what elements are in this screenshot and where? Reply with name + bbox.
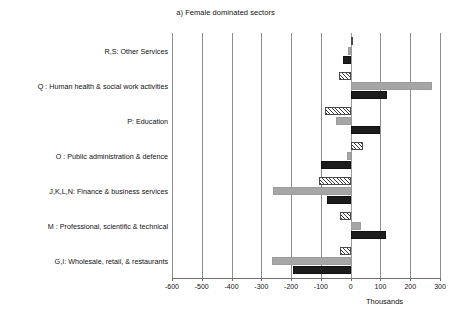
category-label: J,K,L,N: Finance & business services (2, 186, 172, 195)
gridline (172, 33, 173, 278)
bar (273, 187, 350, 195)
x-axis-tick (291, 278, 292, 281)
gridline (440, 33, 441, 278)
chart-figure: a) Female dominated sectors R,S: Other S… (0, 0, 451, 320)
bar (293, 266, 351, 274)
bar (336, 117, 351, 125)
x-axis-tick (351, 278, 352, 281)
bar (340, 212, 350, 220)
x-axis-tick (380, 278, 381, 281)
bar (319, 177, 350, 185)
x-axis-line (172, 278, 440, 279)
x-axis-title: Thousands (366, 297, 403, 306)
bar (272, 257, 351, 265)
category-label: M : Professional, scientific & technical (2, 221, 172, 230)
x-axis-tick (261, 278, 262, 281)
gridline (321, 33, 322, 278)
bar (348, 47, 351, 55)
bar (351, 222, 361, 230)
x-axis-tick (410, 278, 411, 281)
x-axis-tick (172, 278, 173, 281)
category-label: R,S: Other Services (2, 46, 172, 55)
x-axis-tick (440, 278, 441, 281)
plot-area (172, 33, 440, 278)
x-axis-tick (321, 278, 322, 281)
gridline (291, 33, 292, 278)
bar (343, 56, 350, 64)
zero-gridline (351, 33, 352, 278)
bar (327, 196, 351, 204)
gridline (232, 33, 233, 278)
bar (351, 91, 387, 99)
x-axis-tick-label: 300 (420, 283, 451, 290)
category-label: Q : Human health & social work activitie… (2, 81, 172, 90)
gridline (261, 33, 262, 278)
x-axis-tick (202, 278, 203, 281)
category-label: G,I: Wholesale, retail, & restaurants (2, 256, 172, 265)
category-axis-labels: R,S: Other ServicesQ : Human health & so… (0, 0, 172, 320)
bar (351, 231, 387, 239)
bar (351, 82, 432, 90)
category-label: P: Education (2, 116, 172, 125)
category-label: O : Public administration & defence (2, 151, 172, 160)
gridline (410, 33, 411, 278)
bar (351, 37, 353, 45)
bar (347, 152, 351, 160)
bar (340, 247, 350, 255)
bar (321, 161, 351, 169)
gridline (380, 33, 381, 278)
bar (325, 107, 350, 115)
bar (351, 142, 364, 150)
x-axis-tick (232, 278, 233, 281)
bar (339, 72, 350, 80)
bar (351, 126, 381, 134)
gridline (202, 33, 203, 278)
